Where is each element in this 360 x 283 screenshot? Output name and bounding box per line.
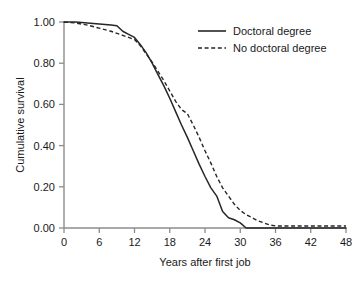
chart-legend: Doctoral degree No doctoral degree — [198, 25, 327, 54]
y-tick-labels: 0.00 0.20 0.40 0.60 0.80 1.00 — [34, 16, 55, 234]
y-tick-marks — [59, 22, 64, 228]
x-axis-title: Years after first job — [159, 256, 250, 268]
y-tick-label: 0.40 — [34, 140, 55, 152]
x-tick-label: 48 — [340, 236, 352, 248]
x-tick-label: 30 — [234, 236, 246, 248]
x-tick-label: 12 — [128, 236, 140, 248]
y-tick-label: 0.60 — [34, 98, 55, 110]
x-tick-label: 42 — [305, 236, 317, 248]
y-tick-label: 0.00 — [34, 222, 55, 234]
x-tick-label: 0 — [61, 236, 67, 248]
legend-label-doctoral-degree: Doctoral degree — [233, 25, 311, 37]
x-tick-label: 36 — [269, 236, 281, 248]
x-tick-label: 6 — [96, 236, 102, 248]
y-tick-label: 0.20 — [34, 181, 55, 193]
x-tick-label: 24 — [199, 236, 211, 248]
x-tick-labels: 0 6 12 18 24 30 36 42 48 — [61, 236, 352, 248]
x-tick-label: 18 — [164, 236, 176, 248]
y-tick-label: 1.00 — [34, 16, 55, 28]
y-axis-title: Cumulative survival — [14, 77, 26, 172]
survival-chart: 0.00 0.20 0.40 0.60 0.80 1.00 0 6 12 18 … — [0, 0, 360, 283]
legend-label-no-doctoral-degree: No doctoral degree — [233, 42, 327, 54]
chart-page: 0.00 0.20 0.40 0.60 0.80 1.00 0 6 12 18 … — [0, 0, 360, 283]
y-tick-label: 0.80 — [34, 57, 55, 69]
